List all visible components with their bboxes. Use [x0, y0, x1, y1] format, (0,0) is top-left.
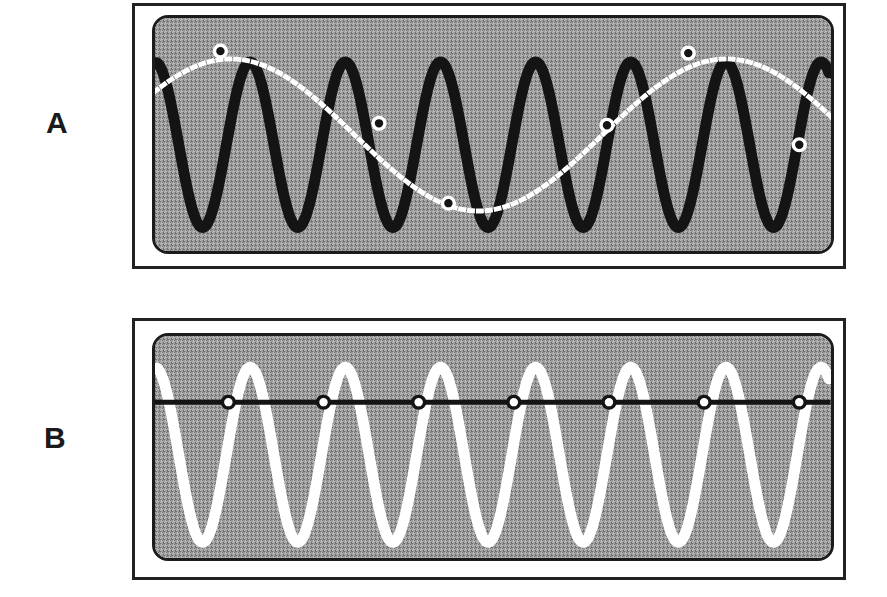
panel-b-carrier-waveform [157, 367, 829, 542]
panel-b-screen [152, 333, 834, 561]
panel-b-frame [132, 318, 846, 580]
panel-a-svg [155, 18, 831, 251]
panel-label-a: A [46, 108, 68, 138]
sample-point-1 [214, 45, 226, 57]
sample-point-7 [793, 396, 805, 408]
figure-root: A B [0, 0, 887, 597]
panel-a-frame [132, 3, 846, 269]
panel-label-b: B [44, 423, 66, 453]
sample-point-2 [373, 117, 385, 129]
panel-b-svg [155, 336, 831, 558]
panel-a-screen [152, 15, 834, 254]
panel-b-plot [155, 336, 831, 558]
sample-point-5 [603, 396, 615, 408]
panel-a-carrier-waveform [157, 62, 829, 228]
sample-point-2 [318, 396, 330, 408]
sample-point-3 [413, 396, 425, 408]
sample-point-3 [442, 197, 454, 209]
sample-point-1 [222, 396, 234, 408]
sample-point-6 [793, 139, 805, 151]
sample-point-4 [601, 119, 613, 131]
sample-point-5 [682, 47, 694, 59]
sample-point-4 [508, 396, 520, 408]
sample-point-6 [698, 396, 710, 408]
panel-a-plot [155, 18, 831, 251]
